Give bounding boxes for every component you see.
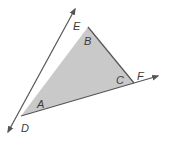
label-C: C [116, 74, 124, 86]
triangle-diagram: E B C F A D [0, 0, 169, 145]
label-E: E [73, 20, 81, 32]
label-D: D [21, 122, 29, 134]
label-A: A [36, 98, 44, 110]
label-B: B [84, 35, 91, 47]
